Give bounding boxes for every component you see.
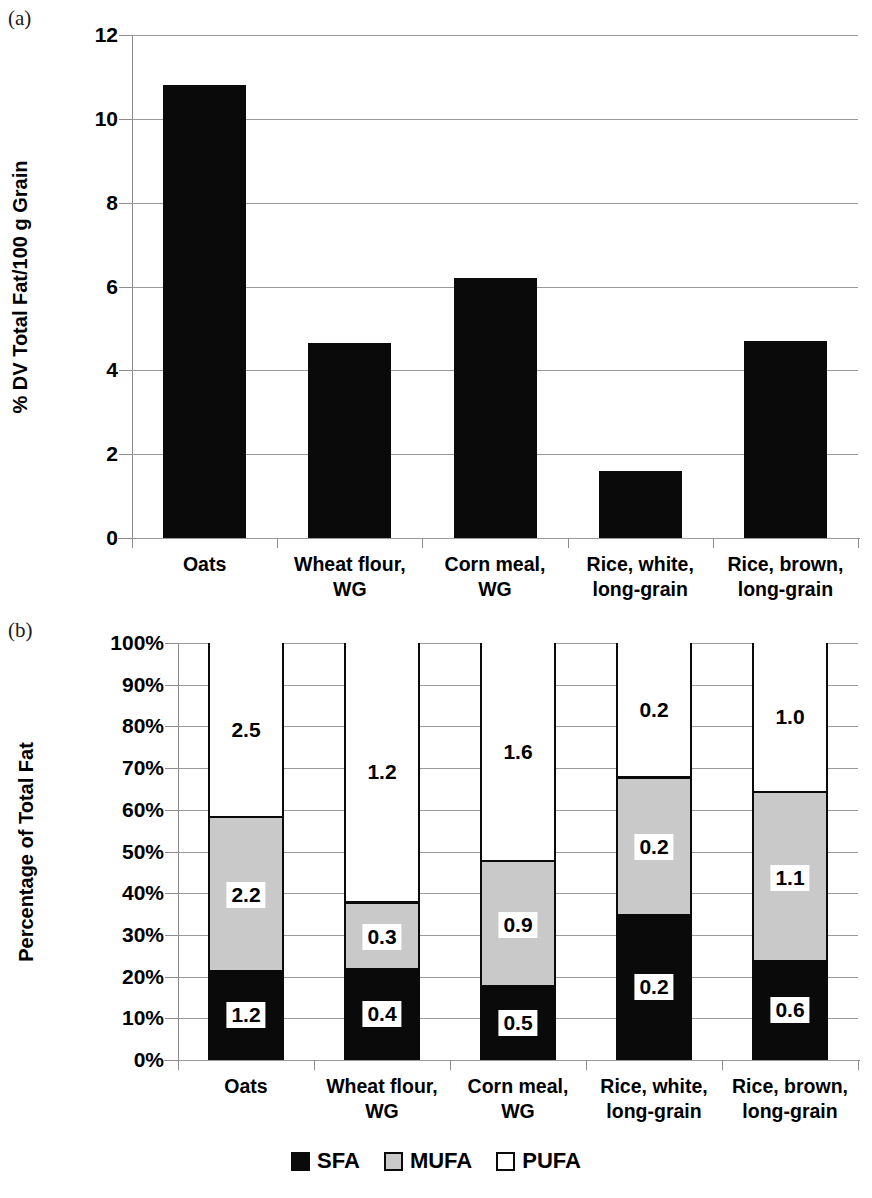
panel-b-segment-divider (618, 914, 690, 917)
panel-b-label: (b) (8, 618, 33, 643)
panel-b-y-tick-label: 90% (122, 673, 164, 697)
panel-a-x-tick (568, 538, 569, 548)
panel-b-stacked-bar: 1.22.22.5 (208, 643, 284, 1060)
panel-b-y-tick (165, 643, 178, 644)
panel-a-y-tick (119, 203, 132, 204)
panel-b-plot-area: 0%10%20%30%40%50%60%70%80%90%100%1.22.22… (178, 643, 858, 1060)
legend-label: PUFA (522, 1148, 581, 1174)
panel-a-x-tick (422, 538, 423, 548)
panel-b-y-tick (165, 1018, 178, 1019)
panel-a-x-label-line: Corn meal, (422, 552, 567, 577)
panel-b-y-tick (165, 810, 178, 811)
panel-a-y-tick (119, 35, 132, 36)
panel-a-gridline (132, 538, 858, 539)
panel-a-x-tick-label: Rice, brown,long-grain (713, 552, 858, 602)
legend-item: MUFA (384, 1148, 472, 1174)
panel-a-bar (744, 341, 827, 538)
panel-b-y-tick-label: 20% (122, 965, 164, 989)
panel-a-total-fat-chart: (a) % DV Total Fat/100 g Grain 024681012… (0, 0, 872, 610)
panel-a-y-tick-label: 6 (106, 275, 118, 299)
panel-b-y-tick-label: 0% (134, 1048, 164, 1072)
legend-label: MUFA (410, 1148, 472, 1174)
panel-a-y-tick (119, 454, 132, 455)
panel-b-y-tick-label: 60% (122, 798, 164, 822)
panel-b-x-label-line: WG (314, 1099, 450, 1124)
panel-b-y-tick-label: 80% (122, 714, 164, 738)
panel-b-segment-divider (482, 860, 554, 863)
panel-b-y-tick-label: 10% (122, 1006, 164, 1030)
panel-b-segment-value-label: 2.2 (226, 882, 265, 908)
panel-b-x-label-line: long-grain (586, 1099, 722, 1124)
panel-b-segment-value-label: 0.9 (498, 912, 537, 938)
panel-b-segment-value-label: 1.2 (362, 759, 401, 785)
panel-a-x-label-line: WG (277, 577, 422, 602)
panel-b-x-tick (586, 1060, 587, 1070)
panel-b-x-label-line: WG (450, 1099, 586, 1124)
panel-b-x-tick (314, 1060, 315, 1070)
panel-a-y-tick-label: 8 (106, 191, 118, 215)
panel-a-x-label-line: long-grain (713, 577, 858, 602)
panel-a-x-label-line: Oats (132, 552, 277, 577)
panel-a-bar (599, 471, 682, 538)
panel-a-x-label-line: WG (422, 577, 567, 602)
panel-b-y-axis-title: Percentage of Total Fat (15, 742, 38, 962)
panel-b-y-tick-label: 70% (122, 756, 164, 780)
panel-a-bar (454, 278, 537, 538)
panel-b-y-tick-label: 40% (122, 881, 164, 905)
panel-b-x-label-line: Corn meal, (450, 1074, 586, 1099)
legend-swatch-pufa (496, 1152, 515, 1171)
panel-b-segment-divider (618, 776, 690, 779)
panel-a-gridline (132, 35, 858, 36)
panel-b-y-tick-label: 30% (122, 923, 164, 947)
legend-swatch-sfa (291, 1152, 310, 1171)
panel-b-y-tick (165, 852, 178, 853)
panel-b-x-label-line: Rice, brown, (722, 1074, 858, 1099)
panel-b-y-tick (165, 893, 178, 894)
legend-item: PUFA (496, 1148, 581, 1174)
panel-b-x-tick-label: Corn meal,WG (450, 1074, 586, 1124)
panel-a-y-tick (119, 538, 132, 539)
panel-b-segment-divider (754, 960, 826, 963)
panel-a-x-tick-label: Rice, white,long-grain (568, 552, 713, 602)
legend-label: SFA (317, 1148, 360, 1174)
panel-b-fat-composition-chart: (b) Percentage of Total Fat 0%10%20%30%4… (0, 610, 872, 1198)
panel-b-x-tick-label: Wheat flour,WG (314, 1074, 450, 1124)
panel-b-y-tick (165, 726, 178, 727)
panel-a-x-label-line: Rice, brown, (713, 552, 858, 577)
panel-b-segment-value-label: 0.3 (362, 924, 401, 950)
panel-b-segment-divider (210, 816, 282, 819)
panel-b-stacked-bar: 0.50.91.6 (480, 643, 556, 1060)
panel-a-x-tick-label: Oats (132, 552, 277, 577)
panel-b-y-tick (165, 685, 178, 686)
panel-a-y-axis-title: % DV Total Fat/100 g Grain (9, 160, 32, 413)
panel-b-segment-value-label: 0.2 (634, 697, 673, 723)
panel-b-segment-value-label: 0.4 (362, 1001, 401, 1027)
panel-b-x-label-line: long-grain (722, 1099, 858, 1124)
panel-a-label: (a) (8, 6, 31, 31)
panel-a-x-tick-label: Corn meal,WG (422, 552, 567, 602)
panel-b-y-tick-label: 50% (122, 840, 164, 864)
panel-b-segment-value-label: 1.1 (770, 865, 809, 891)
panel-b-segment-value-label: 2.5 (226, 717, 265, 743)
panel-b-segment-divider (482, 985, 554, 988)
panel-b-segment-divider (346, 901, 418, 904)
panel-a-y-tick-label: 12 (95, 23, 118, 47)
panel-b-gridline (178, 1060, 858, 1061)
panel-b-segment-divider (346, 968, 418, 971)
legend-item: SFA (291, 1148, 360, 1174)
panel-b-y-tick (165, 935, 178, 936)
panel-b-stacked-bar: 0.40.31.2 (344, 643, 420, 1060)
panel-a-x-tick (713, 538, 714, 548)
panel-a-x-tick (132, 538, 133, 548)
panel-a-x-label-line: long-grain (568, 577, 713, 602)
panel-a-plot-area: 024681012 (132, 35, 858, 538)
panel-b-x-tick-label: Rice, brown,long-grain (722, 1074, 858, 1124)
panel-b-segment-value-label: 1.2 (226, 1002, 265, 1028)
panel-b-x-tick (450, 1060, 451, 1070)
panel-b-y-tick (165, 768, 178, 769)
panel-b-y-tick (165, 1060, 178, 1061)
panel-b-x-label-line: Oats (178, 1074, 314, 1099)
panel-b-y-tick (165, 977, 178, 978)
panel-b-segment-value-label: 0.5 (498, 1010, 537, 1036)
panel-b-x-tick-label: Oats (178, 1074, 314, 1099)
